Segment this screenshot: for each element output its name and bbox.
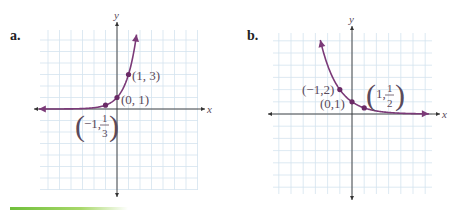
data-point — [349, 99, 354, 104]
data-point — [337, 87, 342, 92]
y-axis-up-arrow-icon — [350, 26, 354, 30]
x-axis-left-arrow-icon — [268, 112, 272, 116]
paren-close: ) — [109, 109, 119, 143]
y-axis-down-arrow-icon — [115, 193, 119, 197]
chart-panel-a: xy(1, 3)(0, 1)(−1,13) — [34, 9, 212, 197]
fraction-denominator: 3 — [102, 127, 108, 139]
plots-canvas: xy(1, 3)(0, 1)(−1,13) xy(−1,2)(0,1)(1,12… — [0, 0, 459, 217]
y-axis-label: y — [113, 9, 119, 21]
fraction-denominator: 2 — [387, 97, 393, 109]
data-point — [103, 103, 108, 108]
point-label-0-1: (0,1) — [320, 96, 345, 111]
grid — [40, 30, 198, 190]
x-axis-label: x — [441, 108, 447, 120]
paren-open: ( — [366, 78, 376, 112]
chart-panel-b: xy(−1,2)(0,1)(1,12) — [268, 13, 447, 200]
paren-close: ) — [395, 78, 405, 112]
data-point — [114, 95, 119, 100]
fraction-numerator: 1 — [387, 82, 393, 94]
point-label-1-3: (1, 3) — [132, 68, 160, 83]
y-axis-down-arrow-icon — [350, 196, 354, 200]
label-text: −1, — [84, 116, 101, 131]
data-point — [126, 72, 131, 77]
fraction-numerator: 1 — [102, 112, 108, 124]
point-label-0-1: (0, 1) — [121, 92, 149, 107]
point-label-neg1-third: (−1,13) — [75, 109, 119, 143]
x-axis-right-arrow-icon — [201, 107, 205, 111]
point-label-1-half: (1,12) — [366, 78, 405, 112]
curve-end-arrow-icon — [132, 35, 139, 42]
point-label-neg1-2: (−1,2) — [302, 82, 334, 97]
x-axis-label: x — [206, 103, 212, 115]
accent-bar — [10, 207, 128, 210]
y-axis-up-arrow-icon — [115, 22, 119, 26]
y-axis-label: y — [348, 13, 354, 25]
label-text: 1, — [376, 86, 386, 101]
x-axis-right-arrow-icon — [436, 112, 440, 116]
x-axis-left-arrow-icon — [34, 107, 38, 111]
curve-start-arrow-icon — [39, 105, 46, 112]
